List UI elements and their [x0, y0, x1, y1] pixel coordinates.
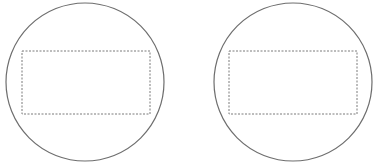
dashed-rectangle-left — [22, 51, 150, 114]
diagram-canvas — [0, 0, 385, 164]
dashed-rectangle-right — [229, 51, 357, 114]
outer-circle-right — [214, 3, 372, 161]
shape-group-right — [214, 3, 372, 161]
shape-group-left — [6, 3, 164, 161]
outer-circle-left — [6, 3, 164, 161]
